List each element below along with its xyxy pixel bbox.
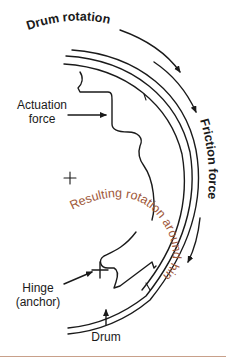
drum-label: Drum xyxy=(86,330,126,344)
friction-force-arrow xyxy=(188,218,200,262)
actuation-force-line2: force xyxy=(14,112,70,126)
center-mark xyxy=(64,172,76,184)
hinge-label: Hinge (anchor) xyxy=(12,281,64,309)
hinge-arrow xyxy=(64,272,92,284)
actuation-force-line1: Actuation xyxy=(14,98,70,112)
hinge-line1: Hinge xyxy=(12,281,64,295)
resulting-rotation-label: Resulting rotation around hinge xyxy=(0,0,184,284)
hinge-line2: (anchor) xyxy=(12,295,64,309)
hinge-mark xyxy=(92,262,108,278)
drum-rotation-arrow xyxy=(120,30,180,72)
drum-rotation-label: Drum rotation xyxy=(25,9,112,32)
actuation-force-label: Actuation force xyxy=(14,98,70,126)
brake-shoe xyxy=(78,72,156,288)
drum-rotation-arrow-2 xyxy=(154,62,196,112)
lining-arcs xyxy=(64,64,184,290)
bottom-divider xyxy=(0,356,226,357)
friction-force-label: Friction force xyxy=(197,117,220,200)
